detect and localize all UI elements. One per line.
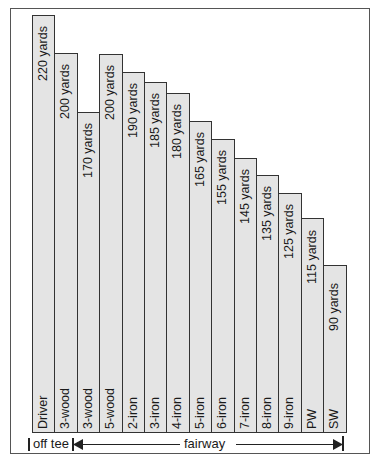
off-tee-label: off tee	[33, 436, 69, 451]
bar-club-label: 6-iron	[215, 397, 229, 429]
bar-club-label: PW	[305, 409, 319, 429]
bar-value-label: 200 yards	[103, 65, 117, 120]
bar-club-label: 5-iron	[193, 397, 207, 429]
bar-club-label: 5-wood	[103, 388, 117, 429]
bar-club-label: 8-iron	[260, 397, 274, 429]
bar-value-label: 135 yards	[260, 186, 274, 241]
bar-club-label: 2-iron	[126, 397, 140, 429]
bar-club-label: 3-wood	[58, 388, 72, 429]
bar-club-label: 4-iron	[170, 397, 184, 429]
fairway-end-tick	[342, 436, 344, 451]
bar-value-label: 90 yards	[327, 283, 341, 331]
fairway-arrow-line-right	[236, 444, 333, 445]
fairway-arrow-line-left	[82, 444, 180, 445]
bar-club-label: 3-iron	[148, 397, 162, 429]
bar-club-label: Driver	[36, 396, 50, 429]
bar-value-label: 220 yards	[36, 26, 50, 81]
bar-value-label: 155 yards	[215, 150, 229, 205]
off-tee-tick	[28, 438, 30, 451]
bar-value-label: 115 yards	[305, 230, 319, 284]
bar-club-label: 9-iron	[282, 397, 296, 429]
bar-value-label: 180 yards	[170, 104, 184, 159]
bar-value-label: 145 yards	[238, 169, 252, 224]
fairway-label: fairway	[184, 436, 225, 451]
bar-value-label: 200 yards	[58, 64, 72, 119]
bar-value-label: 165 yards	[193, 132, 207, 187]
bar-value-label: 190 yards	[126, 83, 140, 138]
bar-value-label: 185 yards	[148, 93, 162, 148]
bar-club-label: 7-iron	[238, 397, 252, 429]
bar-club-label: SW	[327, 409, 341, 429]
bar-value-label: 125 yards	[282, 204, 296, 259]
bar-value-label: 170 yards	[81, 123, 95, 178]
bar-club-label: 3-wood	[81, 388, 95, 429]
